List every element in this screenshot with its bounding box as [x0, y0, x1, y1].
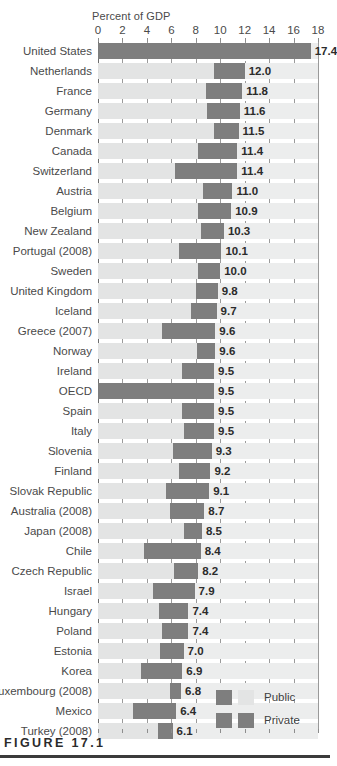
bar-segment-private	[162, 623, 189, 639]
tick-mark-bottom-14	[269, 729, 270, 733]
tick-mark-bottom-4	[147, 729, 148, 733]
category-label: Hungary	[0, 601, 92, 621]
bar-segment-public	[98, 163, 175, 179]
legend-item-public: Public	[216, 688, 321, 708]
bar-segment-private	[196, 283, 218, 299]
bar-value-label: 7.9	[195, 583, 215, 599]
x-tick-label-8: 8	[193, 24, 199, 36]
chart-row: 8.5	[98, 521, 318, 541]
x-tick-label-12: 12	[238, 24, 251, 36]
bar-segment-private	[184, 423, 215, 439]
category-label: Czech Republic	[0, 561, 92, 581]
tick-mark-top-0	[98, 38, 99, 42]
bar-segment-private	[170, 683, 181, 699]
bar-value-label: 11.0	[232, 183, 258, 199]
x-axis-title: Percent of GDP	[92, 10, 170, 22]
bar-segment-private	[197, 343, 215, 359]
chart-row: 8.2	[98, 561, 318, 581]
bar-value-label: 6.8	[181, 683, 201, 699]
chart-row: 7.4	[98, 621, 318, 641]
chart-row: 7.9	[98, 581, 318, 601]
bar-value-label: 8.2	[198, 563, 218, 579]
chart-row: 17.4	[98, 41, 318, 61]
category-label: Portugal (2008)	[0, 241, 92, 261]
bar-value-label: 7.4	[188, 603, 208, 619]
bar-value-label: 9.2	[210, 463, 230, 479]
bar-segment-private	[206, 83, 243, 99]
x-tick-label-16: 16	[287, 24, 300, 36]
category-label: Sweden	[0, 261, 92, 281]
bar-value-label: 11.8	[242, 83, 268, 99]
chart-row: 9.3	[98, 441, 318, 461]
tick-mark-top-10	[220, 38, 221, 42]
category-label: Iceland	[0, 301, 92, 321]
x-tick-label-2: 2	[119, 24, 125, 36]
x-tick-label-0: 0	[95, 24, 101, 36]
chart-row: 10.0	[98, 261, 318, 281]
bar-segment-private	[201, 223, 224, 239]
bar-segment-private	[174, 563, 198, 579]
category-label: Poland	[0, 621, 92, 641]
category-label: Mexico	[0, 701, 92, 721]
bar-value-label: 8.4	[201, 543, 221, 559]
bar-value-label: 9.7	[217, 303, 237, 319]
bar-segment-private	[214, 63, 245, 79]
caption-rule	[0, 755, 330, 758]
category-label: Israel	[0, 581, 92, 601]
bar-segment-public	[98, 463, 179, 479]
bar-value-label: 9.5	[214, 363, 234, 379]
bar-segment-private	[144, 543, 200, 559]
category-label: United States	[0, 41, 92, 61]
tick-mark-bottom-0	[98, 729, 99, 733]
bar-segment-public	[98, 423, 184, 439]
chart-row: 11.4	[98, 141, 318, 161]
bar-segment-private	[166, 483, 209, 499]
chart-row: 9.6	[98, 321, 318, 341]
legend-swatch-right	[238, 713, 254, 728]
bar-segment-private	[198, 143, 237, 159]
category-label: Greece (2007)	[0, 321, 92, 341]
bar-value-label: 9.1	[209, 483, 229, 499]
bar-segment-private	[98, 43, 311, 59]
bar-segment-public	[98, 123, 214, 139]
tick-mark-top-4	[147, 38, 148, 42]
bar-segment-private	[214, 123, 238, 139]
bar-segment-private	[182, 403, 214, 419]
tick-mark-top-2	[122, 38, 123, 42]
bar-segment-public	[98, 603, 159, 619]
chart-row: 9.8	[98, 281, 318, 301]
x-tick-label-4: 4	[144, 24, 150, 36]
legend-label: Private	[264, 711, 300, 730]
bar-segment-public	[98, 143, 198, 159]
bar-segment-public	[98, 623, 162, 639]
bar-segment-private	[162, 323, 216, 339]
chart-row: 11.6	[98, 101, 318, 121]
bar-value-label: 12.0	[245, 63, 271, 79]
bar-value-label: 11.6	[240, 103, 266, 119]
bar-value-label: 11.5	[239, 123, 265, 139]
category-label: France	[0, 81, 92, 101]
category-label: Japan (2008)	[0, 521, 92, 541]
bar-value-label: 7.0	[184, 643, 204, 659]
category-label: Ireland	[0, 361, 92, 381]
x-tick-label-14: 14	[263, 24, 276, 36]
bar-segment-public	[98, 643, 160, 659]
bar-segment-public	[98, 483, 166, 499]
category-label: Finland	[0, 461, 92, 481]
tick-mark-top-14	[269, 38, 270, 42]
tick-mark-bottom-12	[245, 729, 246, 733]
bar-segment-public	[98, 283, 196, 299]
bar-value-label: 11.4	[237, 163, 263, 179]
x-tick-label-10: 10	[214, 24, 227, 36]
legend-swatch-right	[238, 690, 254, 705]
chart-row: 9.6	[98, 341, 318, 361]
bar-segment-private	[170, 503, 204, 519]
gridline-18	[318, 41, 319, 729]
category-label: Denmark	[0, 121, 92, 141]
category-label: Luxembourg (2008)	[0, 681, 92, 701]
tick-mark-top-8	[196, 38, 197, 42]
bar-segment-public	[98, 583, 153, 599]
legend-label: Public	[264, 688, 295, 707]
bar-value-label: 6.9	[182, 663, 202, 679]
